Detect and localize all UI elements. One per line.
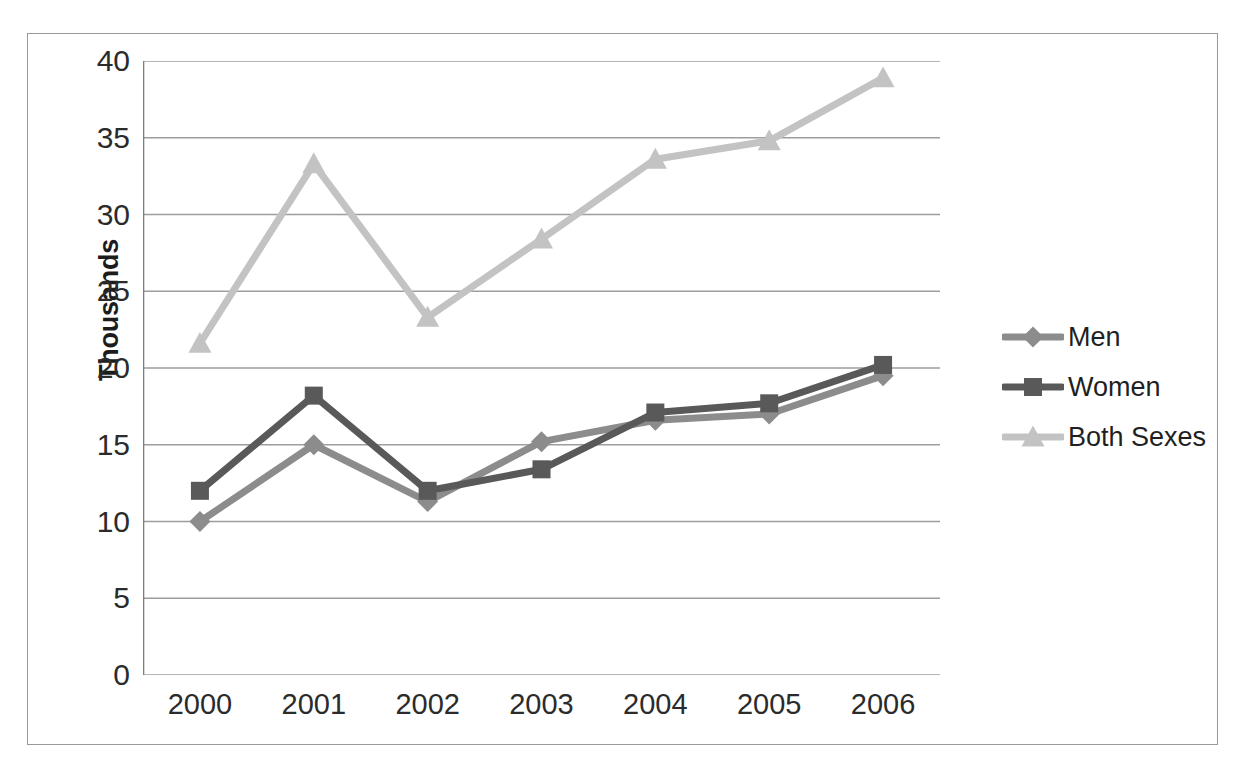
legend-marker-diamond-icon [1002, 324, 1064, 350]
y-axis-tick-label: 5 [70, 583, 130, 613]
data-point-square-marker [305, 387, 323, 405]
series-men [189, 365, 893, 532]
x-axis-tick-label: 2003 [477, 690, 607, 719]
x-axis-tick-label: 2000 [135, 690, 265, 719]
x-axis-tick-labels: 2000200120022003200420052006 [143, 690, 940, 730]
data-point-square-marker [419, 482, 437, 500]
legend-marker-square-icon [1002, 374, 1064, 400]
legend-item-men[interactable]: Men [1002, 312, 1212, 362]
series-line [200, 78, 883, 344]
plot-svg [143, 61, 940, 675]
legend-label: Both Sexes [1068, 424, 1206, 451]
x-axis-tick-label: 2001 [249, 690, 379, 719]
data-point-square-marker [533, 460, 551, 478]
y-axis-tick-label: 40 [70, 46, 130, 76]
y-axis-tick-label: 25 [70, 276, 130, 306]
y-axis-tick-labels: 4035302520151050 [62, 61, 130, 675]
chart-legend: MenWomenBoth Sexes [1002, 312, 1212, 462]
data-point-square-marker [646, 404, 664, 422]
legend-square-marker [1024, 378, 1042, 396]
data-point-square-marker [874, 356, 892, 374]
series-both-sexes [188, 66, 894, 352]
legend-marker-triangle-icon [1002, 424, 1064, 450]
legend-item-both-sexes[interactable]: Both Sexes [1002, 412, 1212, 462]
chart-container: Thousands 4035302520151050 2000200120022… [0, 0, 1245, 773]
legend-item-women[interactable]: Women [1002, 362, 1212, 412]
data-point-square-marker [191, 482, 209, 500]
y-axis-tick-label: 20 [70, 353, 130, 383]
legend-label: Women [1068, 374, 1161, 401]
x-axis-tick-label: 2005 [704, 690, 834, 719]
legend-diamond-marker [1023, 327, 1044, 348]
y-axis-tick-label: 30 [70, 200, 130, 230]
y-axis-tick-label: 0 [70, 660, 130, 690]
x-axis-tick-label: 2002 [363, 690, 493, 719]
x-axis-tick-label: 2006 [818, 690, 948, 719]
y-axis-tick-label: 10 [70, 507, 130, 537]
legend-label: Men [1068, 324, 1121, 351]
data-point-triangle-marker [302, 152, 325, 173]
y-axis-tick-label: 15 [70, 430, 130, 460]
x-axis-tick-label: 2004 [590, 690, 720, 719]
data-point-triangle-marker [872, 66, 895, 87]
series-women [191, 356, 892, 500]
plot-area [143, 61, 940, 675]
data-point-square-marker [760, 394, 778, 412]
y-axis-tick-label: 35 [70, 123, 130, 153]
